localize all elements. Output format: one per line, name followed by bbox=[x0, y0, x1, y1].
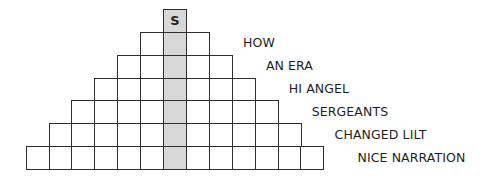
grid-cell[interactable] bbox=[209, 55, 233, 79]
grid-cell[interactable] bbox=[140, 100, 164, 124]
grid-cell[interactable] bbox=[163, 55, 187, 79]
grid-cell[interactable] bbox=[186, 55, 210, 79]
grid-cell[interactable] bbox=[49, 146, 73, 170]
grid-cell[interactable] bbox=[209, 146, 233, 170]
grid-cell[interactable] bbox=[117, 55, 141, 79]
grid-cell[interactable] bbox=[140, 32, 164, 56]
grid-cell[interactable] bbox=[232, 78, 256, 102]
grid-cell[interactable] bbox=[140, 55, 164, 79]
grid-cell[interactable] bbox=[140, 78, 164, 102]
grid-cell[interactable] bbox=[163, 123, 187, 147]
grid-cell[interactable] bbox=[140, 146, 164, 170]
grid-cell[interactable] bbox=[232, 100, 256, 124]
grid-cell[interactable] bbox=[232, 146, 256, 170]
grid-cell[interactable] bbox=[186, 100, 210, 124]
grid-cell[interactable] bbox=[94, 123, 118, 147]
grid-cell[interactable] bbox=[186, 123, 210, 147]
grid-cell[interactable] bbox=[117, 78, 141, 102]
grid-cell[interactable] bbox=[117, 100, 141, 124]
grid-cell[interactable] bbox=[255, 123, 279, 147]
grid-cell[interactable] bbox=[94, 78, 118, 102]
grid-cell[interactable] bbox=[186, 146, 210, 170]
clue-row-1: HOW bbox=[243, 36, 275, 50]
grid-cell[interactable] bbox=[163, 100, 187, 124]
grid-cell[interactable] bbox=[163, 146, 187, 170]
clue-row-2: AN ERA bbox=[266, 59, 313, 73]
grid-cell[interactable] bbox=[94, 146, 118, 170]
grid-cell[interactable] bbox=[255, 146, 279, 170]
clue-row-6: NICE NARRATION bbox=[358, 151, 466, 165]
grid-cell[interactable] bbox=[300, 146, 324, 170]
grid-cell[interactable] bbox=[163, 32, 187, 56]
grid-cell[interactable] bbox=[94, 100, 118, 124]
clue-row-5: CHANGED LILT bbox=[335, 128, 427, 142]
grid-cell[interactable] bbox=[71, 123, 95, 147]
grid-cell[interactable] bbox=[117, 123, 141, 147]
clue-row-3: HI ANGEL bbox=[289, 82, 349, 96]
grid-cell[interactable] bbox=[49, 123, 73, 147]
grid-cell[interactable] bbox=[117, 146, 141, 170]
clue-row-4: SERGEANTS bbox=[312, 105, 388, 119]
top-letter-cell[interactable]: S bbox=[163, 9, 187, 33]
grid-cell[interactable] bbox=[186, 78, 210, 102]
grid-cell[interactable] bbox=[278, 123, 302, 147]
grid-cell[interactable] bbox=[278, 146, 302, 170]
grid-cell[interactable] bbox=[163, 78, 187, 102]
grid-cell[interactable] bbox=[255, 100, 279, 124]
grid-cell[interactable] bbox=[71, 100, 95, 124]
grid-cell[interactable] bbox=[26, 146, 50, 170]
grid-cell[interactable] bbox=[209, 100, 233, 124]
grid-cell[interactable] bbox=[140, 123, 164, 147]
grid-cell[interactable] bbox=[71, 146, 95, 170]
grid-cell[interactable] bbox=[209, 123, 233, 147]
grid-cell[interactable] bbox=[186, 32, 210, 56]
grid-cell[interactable] bbox=[209, 78, 233, 102]
grid-cell[interactable] bbox=[232, 123, 256, 147]
